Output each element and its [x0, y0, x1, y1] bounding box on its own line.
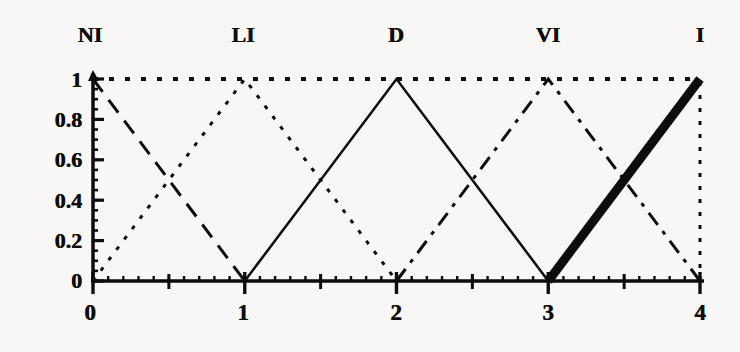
plot-canvas — [0, 0, 740, 352]
membership-function-chart: NI LI D VI I 1 0.8 0.6 0.4 0.2 0 0 1 2 3… — [0, 0, 740, 352]
series-vi — [397, 79, 701, 281]
series-ni — [93, 79, 245, 281]
series-li — [93, 79, 397, 281]
series-layer — [93, 79, 700, 281]
series-d — [245, 79, 549, 281]
axis-layer — [88, 70, 704, 294]
